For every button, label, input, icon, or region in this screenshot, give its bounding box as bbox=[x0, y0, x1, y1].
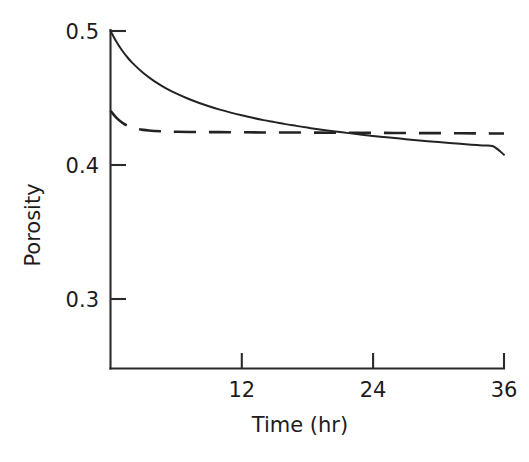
x-tick-label-36: 36 bbox=[491, 378, 518, 402]
porosity-vs-time-chart: 0.5 0.4 0.3 12 24 36 Porosity Time (hr) bbox=[0, 0, 529, 462]
y-tick-label-0.4: 0.4 bbox=[66, 154, 99, 178]
y-tick-label-0.5: 0.5 bbox=[66, 20, 99, 44]
y-axis-title: Porosity bbox=[21, 183, 45, 266]
x-tick-label-24: 24 bbox=[360, 378, 387, 402]
chart-figure: 0.5 0.4 0.3 12 24 36 Porosity Time (hr) bbox=[0, 0, 529, 462]
y-tick-label-0.3: 0.3 bbox=[66, 288, 99, 312]
x-tick-label-12: 12 bbox=[228, 378, 255, 402]
chart-background bbox=[0, 0, 529, 462]
x-axis-title: Time (hr) bbox=[251, 413, 348, 437]
